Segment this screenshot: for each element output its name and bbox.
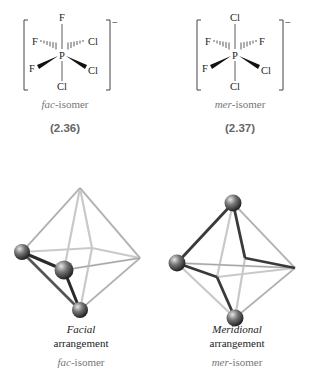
left-bracket <box>24 20 28 90</box>
ligand-sphere <box>55 261 74 280</box>
atom-back-right: Cl <box>88 36 98 47</box>
mer-isomer-label-bottom: mer-isomer <box>172 356 302 368</box>
isomer-prefix: mer <box>212 356 229 368</box>
isomer-suffix: -isomer <box>229 356 263 368</box>
right-bracket <box>279 20 283 90</box>
equation-number: (2.37) <box>175 122 305 134</box>
atom-central: P <box>232 50 238 61</box>
right-bracket <box>106 20 110 90</box>
charge: − <box>285 17 291 28</box>
ligand-sphere <box>169 255 186 272</box>
mer-octahedron-model <box>155 180 310 320</box>
atom-front-right: Cl <box>261 65 271 76</box>
fac-isomer-label-bottom: fac-isomer <box>16 356 146 368</box>
atom-front-left: F <box>29 63 35 74</box>
charge: − <box>112 17 118 28</box>
mer-structure: Cl F F P F Cl Cl − <box>195 10 305 100</box>
atom-central: P <box>59 50 65 61</box>
mer-isomer-label: mer-isomer <box>175 98 305 110</box>
isomer-prefix: mer <box>215 98 232 110</box>
atom-back-left: F <box>32 36 38 47</box>
fac-octahedron-model <box>0 180 155 320</box>
isomer-suffix: -isomer <box>55 98 89 110</box>
atom-back-right: F <box>259 36 265 47</box>
isomer-suffix: -isomer <box>71 356 105 368</box>
atom-top: Cl <box>230 12 240 23</box>
fac-isomer-label: fac-isomer <box>0 98 130 110</box>
atom-bottom: Cl <box>230 81 240 92</box>
equation-number: (2.36) <box>0 122 130 134</box>
arrangement-label: arrangement <box>16 337 146 349</box>
atom-top: F <box>59 12 65 23</box>
arrangement-label: arrangement <box>172 337 302 349</box>
isomer-prefix: fac <box>57 356 70 368</box>
isomer-suffix: -isomer <box>232 98 266 110</box>
atom-front-right: Cl <box>88 65 98 76</box>
facial-title: Facial <box>16 323 146 335</box>
left-bracket <box>197 20 201 90</box>
meridional-title: Meridional <box>172 323 302 335</box>
ligand-sphere <box>14 244 30 260</box>
isomer-prefix: fac <box>41 98 54 110</box>
atom-back-left: F <box>205 36 211 47</box>
ligand-sphere <box>225 195 242 212</box>
atom-bottom: Cl <box>57 81 67 92</box>
ligand-sphere <box>72 302 88 318</box>
fac-structure: F F Cl P F Cl Cl − <box>22 10 132 100</box>
atom-front-left: F <box>202 63 208 74</box>
